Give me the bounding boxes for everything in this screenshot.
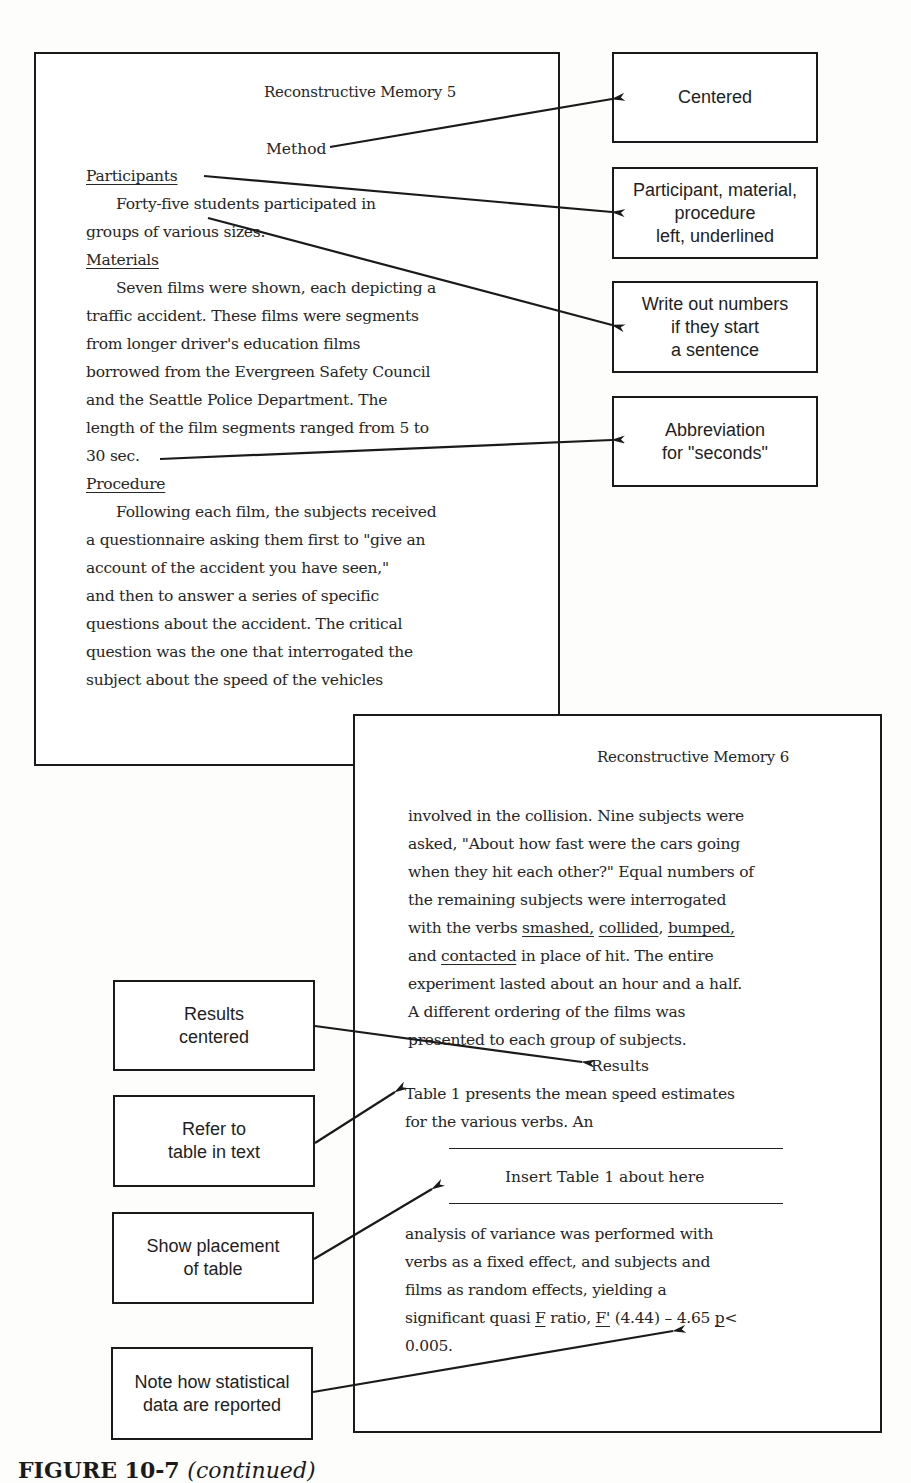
- contacted-suffix: in place of hit. The entire: [516, 947, 713, 965]
- results-line: for the various verbs. An: [405, 1112, 593, 1132]
- stat-prefix: significant quasi: [405, 1309, 535, 1327]
- table-rule-bottom: [449, 1203, 783, 1204]
- note-refer-to-table: Refer to table in text: [113, 1095, 315, 1187]
- statistic-line: significant quasi F ratio, F' (4.44) – 4…: [405, 1308, 737, 1328]
- contacted-prefix: and: [408, 947, 441, 965]
- note-text: Write out numbers: [642, 293, 789, 316]
- procedure-line: a questionnaire asking them first to "gi…: [86, 530, 425, 550]
- f-symbol: F: [535, 1309, 546, 1327]
- note-headings-left-underlined: Participant, material, procedure left, u…: [612, 167, 818, 259]
- results-line: Table 1 presents the mean speed estimate…: [405, 1084, 735, 1104]
- materials-line: and the Seattle Police Department. The: [86, 390, 387, 410]
- stat-mid: ratio,: [546, 1309, 596, 1327]
- method-line: asked, "About how fast were the cars goi…: [408, 834, 740, 854]
- note-results-centered: Results centered: [113, 980, 315, 1071]
- method-heading: Method: [266, 140, 327, 158]
- participants-line: groups of various sizes.: [86, 222, 265, 242]
- participants-heading: Participants: [86, 166, 178, 186]
- materials-line: length of the film segments ranged from …: [86, 418, 429, 438]
- note-text: Results: [184, 1003, 244, 1026]
- manuscript-page-6: Reconstructive Memory 6 involved in the …: [353, 714, 882, 1433]
- analysis-line: analysis of variance was performed with: [405, 1224, 713, 1244]
- method-line: the remaining subjects were interrogated: [408, 890, 726, 910]
- note-text: Refer to: [182, 1118, 246, 1141]
- note-write-out-numbers: Write out numbers if they start a senten…: [612, 281, 818, 373]
- note-text: data are reported: [143, 1394, 281, 1417]
- method-line: experiment lasted about an hour and a ha…: [408, 974, 742, 994]
- analysis-line: verbs as a fixed effect, and subjects an…: [405, 1252, 710, 1272]
- contacted-line: and contacted in place of hit. The entir…: [408, 946, 713, 966]
- participants-line: Forty-five students participated in: [116, 194, 376, 214]
- method-line: presented to each group of subjects.: [408, 1030, 686, 1050]
- note-text: if they start: [671, 316, 759, 339]
- stat-values: (4.44) – 4.65: [610, 1309, 715, 1327]
- note-centered: Centered: [612, 52, 818, 143]
- note-text: Centered: [678, 86, 752, 109]
- f-prime-symbol: F': [595, 1309, 610, 1327]
- verb-smashed: smashed,: [522, 919, 594, 937]
- method-line: involved in the collision. Nine subjects…: [408, 806, 744, 826]
- note-text: for "seconds": [662, 442, 768, 465]
- materials-line: from longer driver's education films: [86, 334, 360, 354]
- note-text: Show placement: [146, 1235, 279, 1258]
- figure-caption: FIGURE 10-7 (continued): [18, 1457, 316, 1483]
- note-text: Abbreviation: [665, 419, 765, 442]
- procedure-heading: Procedure: [86, 474, 165, 494]
- p-symbol: p: [715, 1309, 725, 1327]
- figure-suffix: (continued): [187, 1458, 315, 1483]
- table-rule-top: [449, 1148, 783, 1149]
- note-text: left, underlined: [656, 225, 774, 248]
- results-heading: Results: [591, 1057, 649, 1075]
- note-text: Note how statistical: [134, 1371, 289, 1394]
- materials-line: borrowed from the Evergreen Safety Counc…: [86, 362, 430, 382]
- statistic-tail: 0.005.: [405, 1336, 453, 1356]
- procedure-line: subject about the speed of the vehicles: [86, 670, 383, 690]
- materials-heading: Materials: [86, 250, 159, 270]
- running-head: Reconstructive Memory 6: [597, 748, 789, 766]
- procedure-line: account of the accident you have seen,": [86, 558, 389, 578]
- materials-line: traffic accident. These films were segme…: [86, 306, 419, 326]
- note-text: centered: [179, 1026, 249, 1049]
- method-line: when they hit each other?" Equal numbers…: [408, 862, 754, 882]
- note-text: procedure: [674, 202, 755, 225]
- procedure-line: questions about the accident. The critic…: [86, 614, 402, 634]
- verbs-line: with the verbs smashed, collided, bumped…: [408, 918, 735, 938]
- note-text: table in text: [168, 1141, 260, 1164]
- note-abbreviation-seconds: Abbreviation for "seconds": [612, 396, 818, 487]
- procedure-line: question was the one that interrogated t…: [86, 642, 413, 662]
- figure-label: FIGURE 10-7: [18, 1457, 180, 1483]
- note-table-placement: Show placement of table: [112, 1212, 314, 1304]
- verb-bumped: bumped,: [668, 919, 735, 937]
- method-line: A different ordering of the films was: [408, 1002, 685, 1022]
- materials-line: Seven films were shown, each depicting a: [116, 278, 436, 298]
- note-text: Participant, material,: [633, 179, 797, 202]
- manuscript-page-5: Reconstructive Memory 5 Method Participa…: [34, 52, 560, 766]
- procedure-line: Following each film, the subjects receiv…: [116, 502, 436, 522]
- analysis-line: films as random effects, yielding a: [405, 1280, 666, 1300]
- materials-line: 30 sec.: [86, 446, 140, 466]
- verbs-separator: ,: [659, 919, 668, 937]
- note-text: a sentence: [671, 339, 759, 362]
- note-statistics-reporting: Note how statistical data are reported: [111, 1347, 313, 1440]
- note-text: of table: [183, 1258, 242, 1281]
- verb-contacted: contacted: [441, 947, 516, 965]
- running-head: Reconstructive Memory 5: [264, 83, 456, 101]
- stat-suffix: <: [725, 1309, 738, 1327]
- procedure-line: and then to answer a series of specific: [86, 586, 379, 606]
- table-placeholder: Insert Table 1 about here: [505, 1168, 704, 1186]
- verb-collided: collided: [599, 919, 659, 937]
- verbs-prefix: with the verbs: [408, 919, 522, 937]
